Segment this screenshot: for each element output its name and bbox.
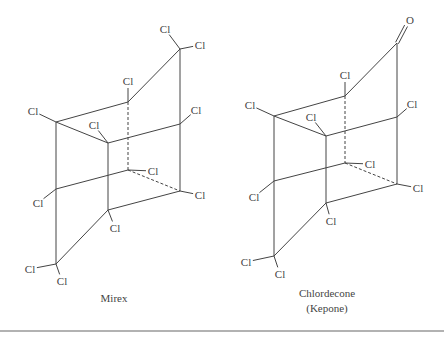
chlorine-label: Cl [249, 192, 259, 203]
substituent-bond [274, 256, 278, 267]
chlorine-label: Cl [191, 105, 201, 116]
chlorine-label: Cl [148, 166, 158, 177]
substituent-bond [397, 184, 411, 187]
substituent-bond [253, 256, 274, 261]
chlorine-label: Cl [195, 190, 205, 201]
chlorine-label: Cl [326, 216, 336, 227]
substituent-bond [44, 189, 56, 199]
bond [108, 191, 180, 210]
structure-diagram [0, 0, 444, 339]
caption-line: (Kepone) [299, 301, 355, 316]
substituent-bond [56, 264, 60, 274]
bond [326, 117, 397, 136]
substituent-bond [39, 114, 56, 122]
chlorine-label: Cl [340, 70, 350, 81]
bond [274, 203, 326, 256]
substituent-bond [37, 264, 56, 268]
chlorine-label: Cl [123, 76, 133, 87]
substituent-bond [256, 108, 274, 116]
substituent-bond [108, 210, 112, 221]
chlorine-label: Cl [57, 276, 67, 287]
bond [274, 163, 345, 181]
oxygen-label: O [406, 15, 414, 26]
chlorine-label: Cl [245, 100, 255, 111]
chlorine-label: Cl [110, 223, 120, 234]
substituent-bond [180, 46, 193, 49]
chlorine-label: Cl [241, 257, 251, 268]
caption-mirex: Mirex [101, 291, 128, 306]
substituent-bond [397, 109, 407, 117]
chlorine-label: Cl [195, 40, 205, 51]
bond [128, 49, 180, 102]
caption-chlordecone: Chlordecone(Kepone) [299, 286, 355, 316]
chlorine-label: Cl [28, 106, 38, 117]
chlorine-label: Cl [306, 112, 316, 123]
substituent-bond [180, 191, 193, 194]
substituent-bond [259, 181, 274, 193]
chlorine-label: Cl [25, 264, 35, 275]
chlorine-label: Cl [275, 269, 285, 280]
bond [56, 210, 108, 264]
chlorine-label: Cl [365, 159, 375, 170]
chlorine-label: Cl [160, 24, 170, 35]
substituent-bond [326, 203, 329, 214]
bond [345, 43, 397, 96]
chlorine-label: Cl [413, 183, 423, 194]
substituent-bond [169, 35, 180, 49]
caption-line: Chlordecone [299, 286, 355, 301]
substituent-bond [180, 115, 191, 124]
chlorine-label: Cl [407, 99, 417, 110]
bond [56, 170, 128, 189]
caption-line: Mirex [101, 291, 128, 306]
chlorine-label: Cl [89, 120, 99, 131]
bond [326, 184, 397, 203]
bond [108, 124, 180, 143]
chlorine-label: Cl [33, 198, 43, 209]
